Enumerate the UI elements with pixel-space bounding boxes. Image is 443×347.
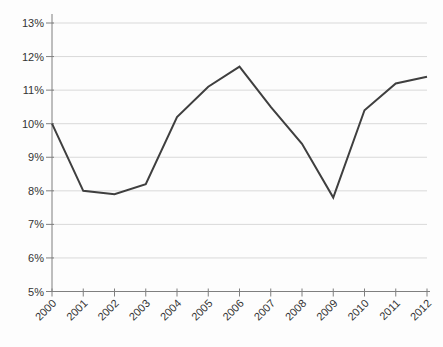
y-axis-label: 10% [22, 118, 44, 130]
data-line [52, 67, 427, 198]
gridlines [52, 23, 427, 258]
data-series [52, 67, 427, 198]
y-axis-ticks [46, 23, 54, 292]
axes [52, 14, 430, 292]
y-axis-label: 11% [23, 84, 44, 96]
y-axis-label: 13% [22, 17, 44, 29]
x-axis-label: 2003 [126, 297, 152, 323]
y-axis-label: 8% [28, 185, 44, 197]
x-axis-label: 2000 [33, 297, 59, 323]
y-axis-labels: 5%6%7%8%9%10%11%12%13% [22, 17, 44, 298]
y-axis-label: 9% [28, 151, 44, 163]
x-axis-label: 2011 [377, 297, 402, 322]
x-axis-label: 2012 [408, 297, 434, 323]
x-axis-ticks [52, 289, 427, 297]
x-axis-label: 2009 [314, 297, 340, 323]
x-axis-label: 2004 [158, 297, 184, 323]
x-axis-label: 2006 [220, 297, 246, 323]
x-axis-label: 2005 [189, 297, 215, 323]
x-axis-label: 2002 [95, 297, 121, 323]
y-axis-label: 12% [22, 51, 44, 63]
x-axis-label: 2001 [64, 297, 90, 323]
y-axis-label: 6% [28, 252, 44, 264]
y-axis-label: 7% [28, 218, 44, 230]
x-axis-label: 2008 [283, 297, 309, 323]
x-axis-label: 2007 [251, 297, 277, 323]
y-axis-label: 5% [28, 286, 44, 298]
chart-page: 5%6%7%8%9%10%11%12%13% 20002001200220032… [0, 0, 443, 347]
x-axis-labels: 2000200120022003200420052006200720082009… [33, 297, 434, 323]
line-chart: 5%6%7%8%9%10%11%12%13% 20002001200220032… [0, 0, 443, 347]
x-axis-label: 2010 [345, 297, 371, 323]
